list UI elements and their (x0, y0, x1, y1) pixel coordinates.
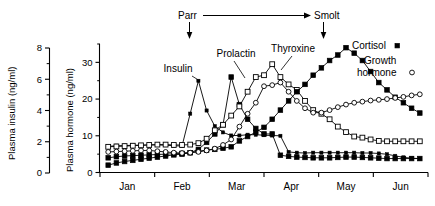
data-point (328, 151, 331, 154)
data-point (327, 156, 332, 161)
data-point (344, 155, 349, 160)
month-label-apr: Apr (284, 181, 300, 192)
data-point (303, 99, 308, 104)
data-point (147, 143, 152, 148)
data-point (327, 58, 332, 63)
data-point (353, 151, 356, 154)
data-point (385, 153, 388, 156)
data-point (312, 151, 315, 154)
data-point (122, 144, 127, 149)
data-point (237, 104, 242, 109)
data-point (409, 93, 414, 98)
data-point (376, 97, 381, 102)
data-point (212, 146, 217, 151)
data-point (401, 156, 406, 161)
data-point (401, 139, 406, 144)
data-point (417, 139, 422, 144)
data-point (131, 158, 136, 163)
data-point (139, 148, 144, 153)
data-point (155, 142, 160, 147)
data-point (393, 139, 398, 144)
data-point (319, 110, 324, 115)
left-tick-label-4: 4 (37, 105, 42, 116)
data-point (344, 130, 349, 135)
data-point (180, 151, 185, 156)
data-point (270, 62, 275, 67)
data-point (368, 156, 373, 161)
data-point (245, 117, 250, 122)
data-point (254, 130, 259, 135)
data-point (385, 139, 390, 144)
data-point (344, 102, 349, 107)
data-point (262, 132, 267, 137)
data-point (171, 150, 176, 155)
month-label-may: May (337, 181, 356, 192)
data-point (130, 148, 135, 153)
data-point (122, 149, 127, 154)
x-axis-month-labels: JanFebMarAprMayJun (119, 181, 408, 192)
insulin-label: Insulin (164, 63, 193, 74)
month-label-jan: Jan (119, 181, 135, 192)
data-point (327, 117, 332, 122)
data-point (385, 156, 390, 161)
data-point (245, 89, 250, 94)
main-axis-title: Plasma hormone (ng/ml) (64, 68, 75, 172)
data-point (360, 135, 365, 140)
main-tick-label-0: 0 (87, 167, 92, 178)
data-point (352, 155, 357, 160)
series-insulin (107, 79, 422, 160)
data-point (369, 151, 372, 154)
data-point (286, 82, 291, 87)
data-point (418, 111, 423, 116)
data-point (196, 141, 201, 146)
data-point (196, 150, 201, 155)
data-point (139, 143, 144, 148)
left-tick-label-0: 0 (37, 167, 42, 178)
data-point (303, 155, 308, 160)
data-point (294, 99, 299, 104)
data-point (171, 143, 176, 148)
data-point (131, 153, 136, 158)
data-point (106, 144, 111, 149)
data-point (286, 89, 291, 94)
data-point (336, 155, 341, 160)
data-point (262, 84, 267, 89)
data-point (205, 109, 208, 112)
data-point (262, 125, 267, 130)
data-point (352, 134, 357, 139)
lifecycle-annotation: Parr Smolt (178, 10, 340, 39)
data-point (278, 108, 283, 113)
data-point (245, 111, 250, 116)
data-point (409, 139, 414, 144)
main-y-axis-tick-labels: 0102030 (82, 57, 93, 178)
data-point (114, 149, 119, 154)
left-axis-group: Plasma insulin (ng/ml) 02468 (6, 42, 50, 178)
data-point (114, 144, 119, 149)
data-point (311, 156, 316, 161)
month-label-feb: Feb (173, 181, 191, 192)
x-axis-ticks (100, 173, 428, 178)
month-label-jun: Jun (393, 181, 409, 192)
data-point (377, 152, 380, 155)
left-tick-label-8: 8 (37, 42, 42, 53)
data-point (253, 75, 258, 80)
data-point (385, 88, 390, 93)
data-point (344, 45, 349, 50)
data-point (213, 125, 216, 128)
data-point (344, 151, 347, 154)
data-point (286, 99, 291, 104)
data-point (229, 75, 234, 80)
data-point (295, 151, 298, 154)
legend-label-cortisol: Cortisol (352, 40, 386, 51)
data-point (106, 156, 111, 161)
data-point (122, 159, 127, 164)
left-tick-label-6: 6 (37, 74, 42, 85)
data-point (385, 97, 390, 102)
data-point (221, 122, 226, 127)
smolt-down-arrow-head (321, 32, 327, 39)
data-point (270, 117, 275, 122)
hormone-profile-figure: Plasma insulin (ng/ml) 02468 Plasma horm… (0, 0, 435, 206)
data-point (303, 106, 308, 111)
legend-label-hormone: hormone (357, 67, 397, 78)
legend-label-growth: Growth (364, 55, 396, 66)
